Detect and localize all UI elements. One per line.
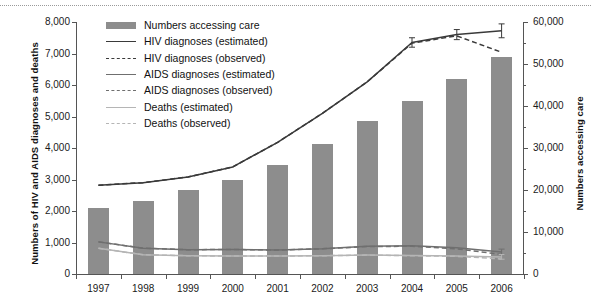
y-tick-label-right: 40,000 — [533, 101, 564, 111]
y-tick-label-right: 50,000 — [533, 59, 564, 69]
x-tickmark — [479, 274, 480, 279]
legend-swatch-icon — [106, 35, 136, 47]
legend-label: AIDS diagnoses (observed) — [144, 84, 272, 96]
y-tickmark-left — [72, 54, 76, 55]
x-axis-ticklabels: 1997199819992000200120022003200420052006 — [0, 283, 591, 303]
legend-label: Deaths (observed) — [144, 117, 230, 129]
x-tickmark — [210, 274, 211, 279]
x-tickmark — [121, 274, 122, 279]
x-tickmark — [255, 274, 256, 279]
x-tick-label: 2003 — [356, 283, 378, 294]
x-tickmark — [345, 274, 346, 279]
y-tickmark-left — [72, 148, 76, 149]
x-tick-label: 1997 — [87, 283, 109, 294]
y-tick-label-right: 20,000 — [533, 185, 564, 195]
legend-item[interactable]: Numbers accessing care — [106, 17, 346, 33]
y-tickmark-left — [72, 85, 76, 86]
y-tickmark-right — [523, 232, 528, 233]
y-tick-label-left: 4,000 — [45, 143, 70, 153]
y-tick-label-right: 30,000 — [533, 143, 564, 153]
legend-item[interactable]: HIV diagnoses (estimated) — [106, 33, 346, 49]
x-tick-label: 2004 — [401, 283, 423, 294]
legend-label: AIDS diagnoses (estimated) — [144, 68, 275, 80]
y-tick-label-right: 10,000 — [533, 227, 564, 237]
x-tickmark — [300, 274, 301, 279]
y-tickmark-left — [72, 180, 76, 181]
x-tick-label: 2001 — [266, 283, 288, 294]
x-tick-label: 1998 — [132, 283, 154, 294]
y-tick-label-left: 3,000 — [45, 175, 70, 185]
x-tick-label: 1999 — [177, 283, 199, 294]
y-tickmark-right — [523, 64, 528, 65]
y-tick-label-right: 0 — [533, 269, 539, 279]
y-tickmark-right — [523, 148, 528, 149]
y-tickmark-right — [523, 106, 528, 107]
y-tickmark-left — [72, 211, 76, 212]
chart-figure: Numbers of HIV and AIDS diagnoses and de… — [0, 0, 591, 307]
legend-swatch-icon — [106, 117, 136, 129]
y-minor-tickmark-right — [523, 211, 526, 212]
legend-item[interactable]: AIDS diagnoses (estimated) — [106, 66, 346, 82]
y-minor-tickmark-right — [523, 127, 526, 128]
legend-swatch-icon — [106, 52, 136, 64]
legend-item[interactable]: HIV diagnoses (observed) — [106, 50, 346, 66]
y-tickmark-left — [72, 243, 76, 244]
x-tick-label: 2005 — [446, 283, 468, 294]
y-tick-label-left: 1,000 — [45, 238, 70, 248]
y-minor-tickmark-right — [523, 85, 526, 86]
y-tick-label-right: 60,000 — [533, 17, 564, 27]
x-tickmark — [76, 274, 77, 279]
x-tick-label: 2002 — [311, 283, 333, 294]
y-minor-tickmark-right — [523, 253, 526, 254]
y-tick-label-left: 8,000 — [45, 17, 70, 27]
x-tickmark — [166, 274, 167, 279]
x-tick-label: 2006 — [490, 283, 512, 294]
legend-swatch-icon — [106, 101, 136, 113]
chart-legend: Numbers accessing careHIV diagnoses (est… — [106, 17, 346, 131]
legend-item[interactable]: Deaths (observed) — [106, 115, 346, 131]
legend-item[interactable]: Deaths (estimated) — [106, 98, 346, 114]
y-minor-tickmark-right — [523, 43, 526, 44]
legend-label: Deaths (estimated) — [144, 101, 233, 113]
x-tickmark — [390, 274, 391, 279]
y-tickmark-left — [72, 117, 76, 118]
legend-swatch-icon — [106, 84, 136, 96]
y-tick-label-left: 2,000 — [45, 206, 70, 216]
x-tick-label: 2000 — [222, 283, 244, 294]
x-tickmark — [524, 274, 525, 279]
y-tick-label-left: 7,000 — [45, 49, 70, 59]
y-tickmark-left — [72, 22, 76, 23]
y-tick-label-left: 6,000 — [45, 80, 70, 90]
line-aids-diagnoses-estimated — [98, 242, 501, 252]
legend-swatch-icon — [106, 68, 136, 80]
y-tickmark-right — [523, 190, 528, 191]
legend-label: Numbers accessing care — [144, 19, 260, 31]
y-axis-left-ticklabels: 01,0002,0003,0004,0005,0006,0007,0008,00… — [14, 0, 70, 307]
top-divider — [0, 5, 591, 7]
legend-item[interactable]: AIDS diagnoses (observed) — [106, 82, 346, 98]
line-aids-diagnoses-observed — [98, 242, 501, 255]
x-tickmark — [434, 274, 435, 279]
y-minor-tickmark-right — [523, 169, 526, 170]
y-tickmark-right — [523, 22, 528, 23]
legend-label: HIV diagnoses (observed) — [144, 52, 265, 64]
legend-swatch-icon — [106, 19, 136, 31]
y-tick-label-left: 0 — [64, 269, 70, 279]
y-tick-label-left: 5,000 — [45, 112, 70, 122]
legend-label: HIV diagnoses (estimated) — [144, 35, 268, 47]
y-axis-right-ticklabels: 010,00020,00030,00040,00050,00060,000 — [533, 0, 589, 307]
